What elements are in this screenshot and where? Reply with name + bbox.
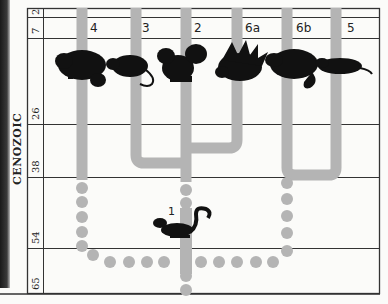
- tick-65: 65: [30, 277, 41, 290]
- lineage-label-6b: 6b: [296, 21, 311, 35]
- tick-7: 7: [30, 28, 41, 34]
- tick-2: 2: [30, 9, 41, 15]
- lineage-labels: 4 3 2 6a 6b 5 1: [90, 21, 355, 218]
- rat-silhouette: [106, 55, 153, 86]
- time-scale: 2 7 26 38 54 65: [30, 9, 41, 290]
- ancestor-label: 1: [168, 205, 175, 218]
- lineage-label-4: 4: [90, 21, 98, 35]
- lineage-label-6a: 6a: [245, 21, 260, 35]
- lineage-label-5: 5: [347, 21, 355, 35]
- tick-38: 38: [30, 160, 41, 173]
- long-rodent-silhouette: [315, 58, 372, 74]
- tick-54: 54: [30, 231, 41, 244]
- lineage-label-2: 2: [194, 21, 202, 35]
- phylogeny-diagram: 2 7 26 38 54 65 4 3 2 6a 6b 5: [0, 0, 388, 304]
- tick-26: 26: [30, 107, 41, 120]
- lineage-label-3: 3: [142, 21, 150, 35]
